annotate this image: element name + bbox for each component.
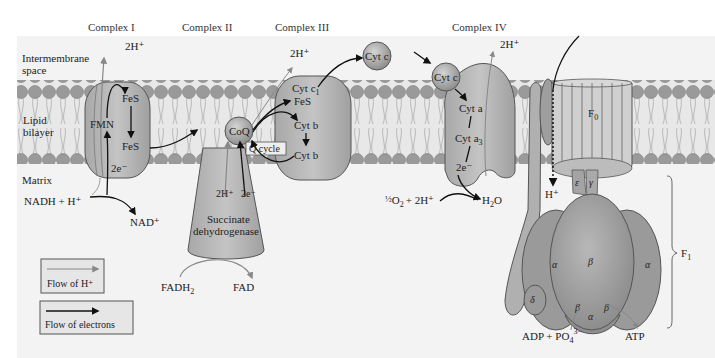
complex-2-electrons: 2e⁻ [241, 188, 256, 199]
legend-proton-label: Flow of H⁺ [47, 278, 93, 289]
beta-center-label: β [587, 256, 593, 267]
cyt-c-label-1: Cyt c [365, 50, 389, 62]
fad-label: FAD [233, 281, 254, 293]
synthase-proton: H⁺ [545, 188, 559, 200]
cyt-a-label: Cyt a [459, 102, 483, 114]
complex-titles: Complex I Complex II Complex III Complex… [88, 21, 507, 33]
epsilon-label: ε [575, 177, 579, 188]
delta-subunit [524, 285, 546, 315]
complex-1-electrons: 2e⁻ [111, 162, 127, 174]
lipid-label: Lipid [23, 114, 47, 126]
enzyme-label-1: Succinate [207, 213, 250, 225]
matrix-label: Matrix [22, 174, 52, 186]
beta-bottom-right: β [603, 302, 609, 313]
delta-label: δ [530, 294, 535, 305]
cyt-b-top: Cyt b [294, 119, 319, 131]
alpha-right-label: α [645, 259, 651, 270]
alpha-bottom-label: α [588, 311, 594, 322]
complex-1-proton: 2H⁺ [125, 40, 144, 52]
complex-2-proton: 2H⁺ [216, 188, 234, 199]
atp-label: ATP [625, 330, 645, 342]
lipid-label-2: bilayer [23, 126, 54, 138]
nad-label: NAD⁺ [130, 216, 160, 228]
complex-2-title: Complex II [182, 21, 233, 33]
nadh-label: NADH + H⁺ [24, 195, 81, 207]
intermembrane-label: Intermembrane [22, 52, 89, 64]
fes-top: FeS [122, 92, 139, 104]
complex-4-title: Complex IV [452, 21, 507, 33]
oxphos-diagram: Complex I Complex II Complex III Complex… [0, 0, 715, 358]
alpha-left-label: α [552, 259, 558, 270]
cyt-b-bottom: Cyt b [294, 149, 319, 161]
f0-ring: F0 [552, 79, 632, 178]
complex-1-title: Complex I [88, 21, 135, 33]
coq-label: CoQ [229, 125, 250, 137]
legend-electron-label: Flow of electrons [45, 319, 115, 330]
fes-label: FeS [294, 95, 311, 107]
complex-4-proton: 2H⁺ [500, 38, 519, 50]
complex-3-title: Complex III [275, 21, 329, 33]
intermembrane-label-2: space [22, 64, 47, 76]
f1-head: δ α β α β α β [522, 194, 661, 334]
enzyme-label-2: dehydrogenase [193, 225, 259, 237]
fes-bottom: FeS [122, 140, 139, 152]
fmn-label: FMN [90, 118, 114, 130]
complex-3-proton: 2H⁺ [290, 47, 309, 59]
cyt-c-label-2: Cyt c [434, 71, 458, 83]
complex-4-electrons: 2e⁻ [456, 161, 472, 173]
